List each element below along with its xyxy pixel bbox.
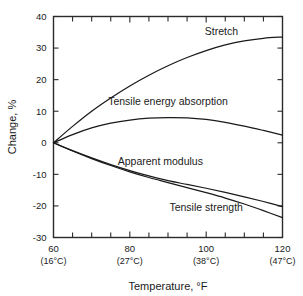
x-tick-label: 80 [125, 243, 136, 254]
data-series-group [54, 37, 283, 218]
series-label-stretch: Stretch [205, 25, 238, 37]
y-tick-label: 0 [41, 137, 46, 148]
x-tick-sublabel: (38°C) [193, 256, 219, 266]
x-axis-title: Temperature, °F [129, 280, 208, 292]
series-line-tensile-energy-absorption [54, 118, 283, 143]
y-tick-label: -10 [33, 169, 47, 180]
series-label-tensile-energy-absorption: Tensile energy absorption [108, 95, 228, 107]
x-tick-sublabel: (47°C) [269, 256, 295, 266]
y-axis-tick-labels: 403020100-10-20-30 [33, 11, 47, 243]
y-tick-label: -20 [33, 200, 47, 211]
x-tick-label: 60 [48, 243, 59, 254]
series-label-tensile-strength: Tensile strength [169, 201, 243, 213]
chart-canvas: 403020100-10-20-30 60(16°C)80(27°C)100(3… [0, 0, 303, 296]
x-tick-sublabel: (27°C) [117, 256, 143, 266]
y-tick-label: 20 [36, 74, 47, 85]
chart-figure: 403020100-10-20-30 60(16°C)80(27°C)100(3… [0, 0, 303, 296]
x-tick-sublabel: (16°C) [40, 256, 66, 266]
series-line-apparent-modulus [54, 143, 283, 207]
x-tick-label: 120 [275, 243, 291, 254]
y-axis-title: Change, % [6, 100, 18, 155]
y-tick-label: 40 [36, 11, 47, 22]
y-tick-label: 30 [36, 42, 47, 53]
series-label-apparent-modulus: Apparent modulus [118, 155, 203, 167]
y-tick-label: -30 [33, 232, 47, 243]
x-axis-tick-labels: 60(16°C)80(27°C)100(38°C)120(47°C) [40, 243, 295, 266]
y-tick-label: 10 [36, 106, 47, 117]
x-tick-label: 100 [198, 243, 214, 254]
